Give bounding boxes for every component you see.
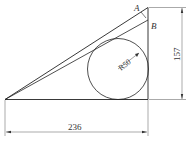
radius-arrowhead — [135, 53, 139, 57]
height-arrow-bottom — [181, 94, 183, 99]
label-b: B — [151, 21, 157, 31]
width-arrow-left — [6, 131, 11, 133]
width-arrow-right — [142, 131, 147, 133]
diagram-canvas: A B R50 157 236 — [0, 0, 190, 144]
outer-triangle — [5, 8, 148, 100]
height-arrow-top — [181, 8, 183, 13]
segment-ab — [141, 12, 146, 18]
label-width: 236 — [68, 122, 82, 132]
label-height: 157 — [172, 47, 182, 61]
label-a: A — [133, 3, 140, 13]
